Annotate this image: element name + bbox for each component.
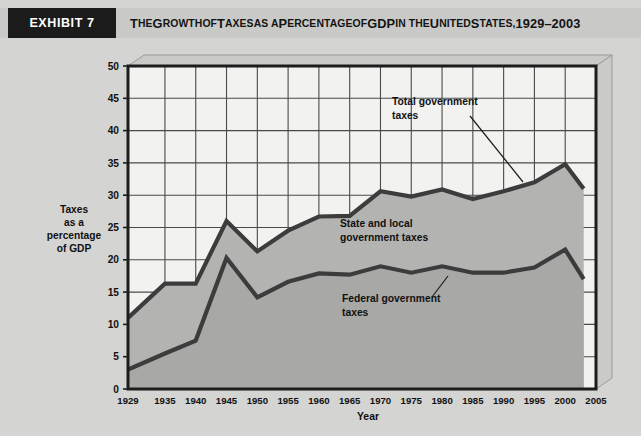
annotation-label-total-government-taxes: taxes: [392, 110, 419, 121]
annotation-label-federal-government-taxes: Federal government: [342, 293, 441, 304]
x-axis-tick-label: 1995: [524, 395, 546, 406]
x-axis-tick-label: 1955: [277, 395, 299, 406]
y-axis-tick-label: 50: [108, 61, 120, 72]
exhibit-figure: EXHIBIT 7 THE GROWTH OF TAXES AS A PERCE…: [0, 0, 641, 436]
y-axis-tick-label: 35: [108, 158, 120, 169]
y-axis-tick-label: 40: [108, 125, 120, 136]
x-axis-tick-label: 1965: [339, 395, 361, 406]
y-axis-tick-label: 15: [108, 287, 120, 298]
annotation-label-state-and-local-government-taxes: government taxes: [340, 232, 428, 243]
y-axis-tick-label: 25: [108, 222, 120, 233]
y-axis-tick-label: 30: [108, 190, 120, 201]
y-axis-tick-label: 0: [113, 384, 119, 395]
x-axis-tick-label: 1960: [308, 395, 329, 406]
x-axis-tick-label: 1985: [462, 395, 484, 406]
x-axis-tick-label: 1940: [185, 395, 206, 406]
chart-canvas: 05101520253035404550 1929193519401945195…: [0, 0, 641, 436]
y-axis-tick-label: 45: [108, 93, 120, 104]
x-axis-tick-label: 1929: [117, 395, 138, 406]
x-axis-tick-label: 2000: [555, 395, 576, 406]
plot-top-face: [128, 55, 612, 66]
y-axis-tick-label: 5: [113, 351, 119, 362]
y-axis-tick-label: 10: [108, 319, 120, 330]
x-axis-tick-label: 1980: [431, 395, 452, 406]
x-axis-tick-label: 1945: [216, 395, 238, 406]
plot-right-face: [596, 55, 612, 389]
x-axis-tick-label: 1950: [247, 395, 268, 406]
x-axis-tick-labels: 1929193519401945195019551960196519701975…: [117, 395, 607, 406]
x-axis-tick-label: 1990: [493, 395, 514, 406]
annotation-label-state-and-local-government-taxes: State and local: [340, 218, 413, 229]
y-axis-tick-labels: 05101520253035404550: [108, 61, 128, 395]
x-axis-tick-label: 1935: [154, 395, 176, 406]
x-axis-tick-label: 1975: [401, 395, 423, 406]
x-axis-tick-label: 2005: [585, 395, 607, 406]
y-axis-tick-label: 20: [108, 254, 120, 265]
annotation-label-federal-government-taxes: taxes: [342, 307, 369, 318]
annotation-label-total-government-taxes: Total government: [392, 96, 478, 107]
x-axis-tick-label: 1970: [370, 395, 391, 406]
